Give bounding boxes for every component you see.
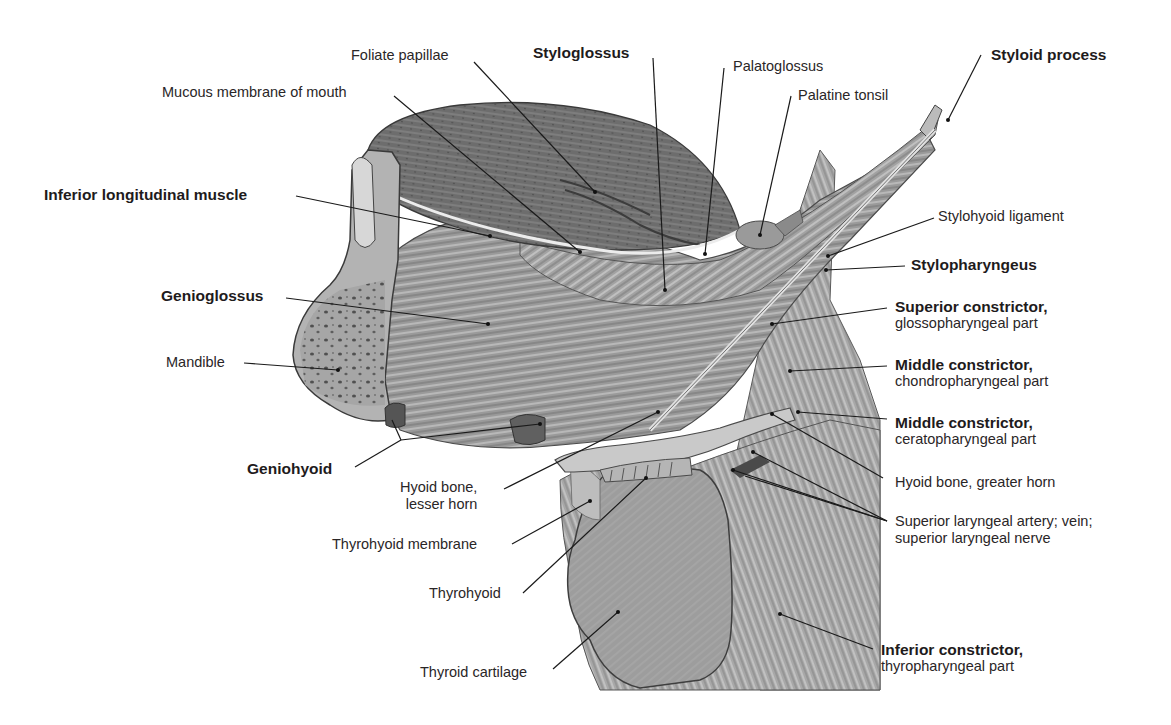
label-stylopharyngeus: Stylopharyngeus <box>911 256 1037 273</box>
label-thyroid-cartilage: Thyroid cartilage <box>420 664 527 681</box>
label-hyoid-lesser-horn-title: Hyoid bone, <box>400 479 477 495</box>
label-superior-laryngeal-line1: Superior laryngeal artery; vein; <box>895 513 1092 529</box>
label-superior-constrictor-title: Superior constrictor, <box>895 298 1047 315</box>
label-superior-laryngeal: Superior laryngeal artery; vein; superio… <box>895 513 1092 547</box>
label-middle-constrictor-cerato: Middle constrictor, ceratopharyngeal par… <box>895 414 1036 448</box>
label-inferior-constrictor-title: Inferior constrictor, <box>881 641 1023 658</box>
label-hyoid-greater-horn: Hyoid bone, greater horn <box>895 474 1055 491</box>
label-superior-laryngeal-line2: superior laryngeal nerve <box>895 530 1092 547</box>
label-middle-constrictor-chondro: Middle constrictor, chondropharyngeal pa… <box>895 356 1048 390</box>
label-mucous-membrane: Mucous membrane of mouth <box>162 84 347 101</box>
label-middle-constrictor-chondro-part: chondropharyngeal part <box>895 373 1048 390</box>
label-inferior-constrictor-part: thyropharyngeal part <box>881 658 1023 675</box>
label-palatoglossus: Palatoglossus <box>733 58 823 75</box>
label-thyrohyoid-membrane: Thyrohyoid membrane <box>332 536 477 553</box>
label-mandible: Mandible <box>166 354 225 371</box>
label-superior-constrictor-part: glossopharyngeal part <box>895 315 1047 332</box>
label-genioglossus: Genioglossus <box>161 287 264 304</box>
label-thyrohyoid: Thyrohyoid <box>429 585 501 602</box>
label-palatine-tonsil: Palatine tonsil <box>798 87 888 104</box>
label-hyoid-lesser-horn-part: lesser horn <box>400 496 477 513</box>
label-middle-constrictor-cerato-part: ceratopharyngeal part <box>895 431 1036 448</box>
label-inferior-constrictor: Inferior constrictor, thyropharyngeal pa… <box>881 641 1023 675</box>
label-foliate-papillae: Foliate papillae <box>351 47 449 64</box>
label-superior-constrictor: Superior constrictor, glossopharyngeal p… <box>895 298 1047 332</box>
label-styloid-process: Styloid process <box>991 46 1106 63</box>
label-middle-constrictor-chondro-title: Middle constrictor, <box>895 356 1033 373</box>
label-geniohyoid: Geniohyoid <box>247 460 332 477</box>
label-hyoid-lesser-horn: Hyoid bone, lesser horn <box>400 479 477 513</box>
anatomy-figure: Foliate papillae Mucous membrane of mout… <box>0 0 1171 725</box>
label-stylohyoid-ligament: Stylohyoid ligament <box>938 208 1064 225</box>
label-styloglossus: Styloglossus <box>533 44 629 61</box>
label-middle-constrictor-cerato-title: Middle constrictor, <box>895 414 1033 431</box>
label-inferior-longitudinal-muscle: Inferior longitudinal muscle <box>44 186 247 203</box>
